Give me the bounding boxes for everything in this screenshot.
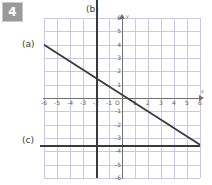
callout-label-b: (b) [86,5,99,14]
graph-figure: 4 xyO-6-5-4-3-2-1123456654321-1-2-3-4-5-… [0,0,212,185]
x-axis-name: x [201,88,204,94]
plotted-line-b [96,0,98,178]
plotted-line-a [44,18,200,178]
callout-label-c: (c) [22,136,34,145]
callout-label-a: (a) [22,40,35,49]
coordinate-plane: xyO-6-5-4-3-2-1123456654321-1-2-3-4-5-6 [44,18,200,178]
question-number-label: 4 [8,6,16,18]
question-number-badge: 4 [3,3,22,21]
plotted-line-c [40,145,200,147]
